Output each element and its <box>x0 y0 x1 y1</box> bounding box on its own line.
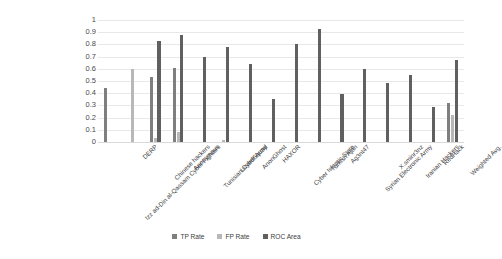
bar <box>409 75 412 142</box>
bar-group <box>333 20 344 142</box>
bar-group <box>218 20 229 142</box>
bar <box>318 29 321 142</box>
bar-group <box>287 20 298 142</box>
bar <box>432 107 435 142</box>
legend-swatch-icon <box>217 234 222 239</box>
bar <box>249 64 252 142</box>
bar <box>295 44 298 142</box>
y-axis-tick: 0.8 <box>70 40 96 48</box>
bar-group <box>379 20 390 142</box>
bar <box>386 83 389 142</box>
legend-item[interactable]: FP Rate <box>217 233 249 240</box>
bar <box>177 132 180 142</box>
bar-group <box>127 20 138 142</box>
bar-group <box>241 20 252 142</box>
x-axis-label: DERP <box>141 143 158 160</box>
bar-group <box>310 20 321 142</box>
chart-legend: TP RateFP RateROC Area <box>0 233 473 240</box>
bar <box>157 41 160 142</box>
legend-label: FP Rate <box>225 233 249 240</box>
y-axis-tick: 0 <box>70 138 96 146</box>
bar <box>203 57 206 142</box>
bar-group <box>424 20 435 142</box>
bar-group <box>173 20 184 142</box>
x-axis-labels: Izz ad-Din al-Qassam Cyber FightersDERPC… <box>98 143 464 223</box>
legend-label: TP Rate <box>180 233 204 240</box>
legend-swatch-icon <box>172 234 177 239</box>
bar <box>150 77 153 142</box>
x-axis-label: Syrian Electronic Army <box>384 143 434 193</box>
bar <box>104 88 107 142</box>
y-axis-tick: 0.9 <box>70 28 96 36</box>
bar <box>451 115 454 142</box>
y-axis-tick: 0.2 <box>70 114 96 122</box>
y-axis-tick: 0.3 <box>70 101 96 109</box>
bar <box>363 69 366 142</box>
bar <box>131 69 134 142</box>
y-axis-tick: 1 <box>70 16 96 24</box>
y-axis-tick: 0.5 <box>70 77 96 85</box>
bar-group <box>196 20 207 142</box>
bar-group <box>264 20 275 142</box>
bar-group <box>150 20 161 142</box>
bar <box>340 94 343 142</box>
plot-area <box>98 20 464 142</box>
bar <box>455 60 458 142</box>
bar <box>272 99 275 142</box>
legend-swatch-icon <box>263 234 268 239</box>
bar-group <box>104 20 115 142</box>
bar <box>154 138 157 142</box>
y-axis: 10.90.80.70.60.50.40.30.20.10 <box>70 0 96 259</box>
bar <box>180 35 183 142</box>
y-axis-tick: 0.4 <box>70 89 96 97</box>
legend-label: ROC Area <box>271 233 301 240</box>
bar <box>173 68 176 142</box>
bar <box>226 47 229 142</box>
y-axis-tick: 0.6 <box>70 65 96 73</box>
legend-item[interactable]: ROC Area <box>263 233 301 240</box>
bar-group <box>401 20 412 142</box>
bar-group <box>356 20 367 142</box>
bar <box>222 140 225 142</box>
y-axis-tick: 0.1 <box>70 126 96 134</box>
y-axis-tick: 0.7 <box>70 53 96 61</box>
bar-series-container <box>98 20 464 142</box>
x-axis-label: Weighted Avg. <box>468 143 502 177</box>
bar <box>447 103 450 142</box>
legend-item[interactable]: TP Rate <box>172 233 204 240</box>
bar-group <box>447 20 458 142</box>
